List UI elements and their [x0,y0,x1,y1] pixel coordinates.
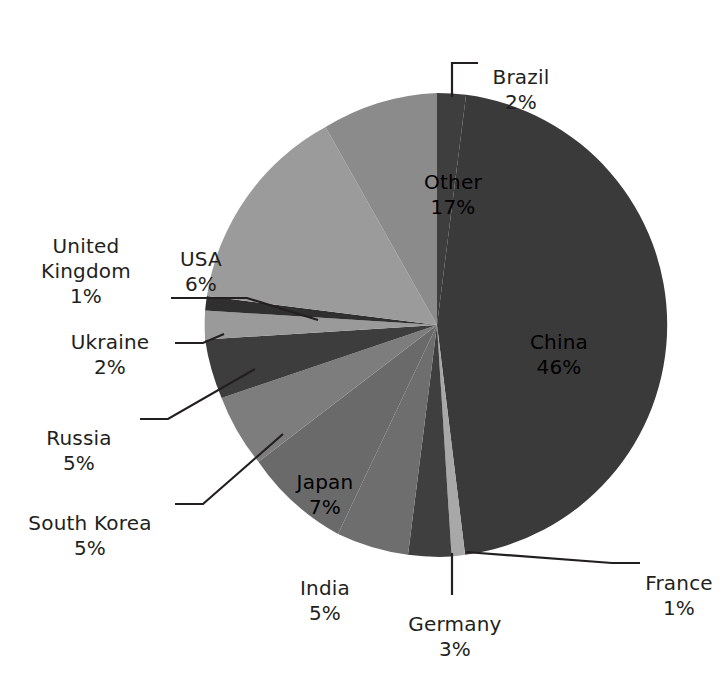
pie-label-india: India 5% [270,551,380,651]
leader-line-france [466,552,640,563]
pie-label-japan: Japan 7% [270,445,380,545]
pie-label-south-korea: South Korea 5% [8,486,172,586]
pie-label-japan-name: Japan [297,470,354,494]
pie-label-china-name: China [530,330,588,354]
pie-label-germany-name: Germany [408,612,501,636]
pie-label-russia-percent: 5% [22,451,136,476]
pie-label-china-percent: 46% [504,355,614,380]
pie-label-united-kingdom-name: United Kingdom [41,234,131,283]
pie-label-other-name: Other [424,170,482,194]
pie-label-ukraine-percent: 2% [50,355,170,380]
pie-label-germany: Germany 3% [396,587,514,676]
pie-chart: Brazil 2% China 46% Other 17% USA 6% Uni… [0,0,725,676]
pie-label-ukraine-name: Ukraine [71,330,150,354]
pie-label-japan-percent: 7% [270,495,380,520]
pie-label-south-korea-name: South Korea [28,511,151,535]
pie-label-india-percent: 5% [270,601,380,626]
pie-label-germany-percent: 3% [396,637,514,662]
pie-label-france: France 1% [634,546,724,646]
pie-label-brazil: Brazil 2% [466,40,576,140]
pie-label-france-percent: 1% [634,596,724,621]
pie-label-russia-name: Russia [46,426,112,450]
pie-label-south-korea-percent: 5% [8,536,172,561]
pie-label-france-name: France [645,571,713,595]
pie-label-usa-name: USA [180,247,222,271]
pie-label-china: China 46% [504,305,614,405]
pie-label-india-name: India [300,576,350,600]
pie-label-other: Other 17% [398,145,508,245]
pie-label-usa-percent: 6% [146,272,256,297]
pie-label-ukraine: Ukraine 2% [50,305,170,405]
pie-label-other-percent: 17% [398,195,508,220]
pie-label-brazil-name: Brazil [492,65,549,89]
pie-label-brazil-percent: 2% [466,90,576,115]
